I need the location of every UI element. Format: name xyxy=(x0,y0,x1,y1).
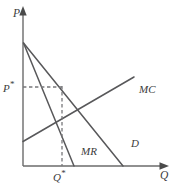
quantity-axis-label: Q xyxy=(160,170,169,182)
quantity-star-letter: Q xyxy=(53,171,61,183)
quantity-star-label: Q* xyxy=(53,169,66,183)
price-axis-label: P xyxy=(13,8,20,20)
quantity-star-asterisk: * xyxy=(61,168,66,178)
price-star-label: P* xyxy=(3,80,14,94)
diagram-canvas xyxy=(0,0,178,190)
price-star-letter: P xyxy=(3,82,10,94)
marginal-revenue-curve xyxy=(24,43,75,166)
marginal-cost-curve xyxy=(23,77,134,142)
economics-diagram: P Q MC D MR P* Q* xyxy=(0,0,178,190)
marginal-cost-label: MC xyxy=(139,84,156,95)
demand-label: D xyxy=(131,138,139,149)
demand-curve xyxy=(24,43,124,166)
marginal-revenue-label: MR xyxy=(81,146,97,157)
price-star-asterisk: * xyxy=(10,79,15,89)
price-axis-arrowhead xyxy=(19,6,26,16)
